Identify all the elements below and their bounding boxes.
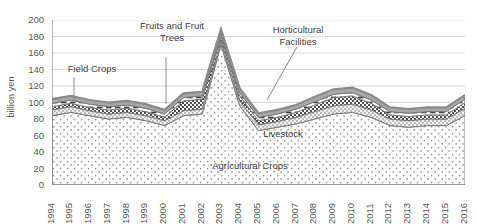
x-tick-2000: 2000 [156, 188, 169, 224]
y-tick-20: 20 [14, 164, 44, 174]
y-tick-180: 180 [14, 32, 44, 42]
x-tick-2013: 2013 [400, 188, 413, 224]
x-tick-1997: 1997 [100, 188, 113, 224]
annotation-field-crops: Field Crops [56, 63, 128, 75]
x-tick-2008: 2008 [306, 188, 319, 224]
annotation-fruits-and-fruit-trees: Fruits and Fruit Trees [126, 20, 218, 43]
annotation-horticultural-facilities: Horticultural Facilities [255, 24, 341, 47]
x-tick-2011: 2011 [363, 188, 376, 224]
y-tick-160: 160 [14, 48, 44, 58]
annotation-agricultural-crops: Agricultural Crops [198, 160, 302, 172]
y-tick-0: 0 [14, 180, 44, 190]
x-tick-2007: 2007 [288, 188, 301, 224]
x-tick-2012: 2012 [381, 188, 394, 224]
x-tick-2014: 2014 [419, 188, 432, 224]
y-tick-40: 40 [14, 147, 44, 157]
x-tick-1996: 1996 [81, 188, 94, 224]
x-tick-1998: 1998 [119, 188, 132, 224]
x-tick-2006: 2006 [269, 188, 282, 224]
x-tick-2009: 2009 [325, 188, 338, 224]
y-tick-60: 60 [14, 131, 44, 141]
x-axis-ticks: 1994199519961997199819992000200120022003… [52, 187, 465, 224]
annotation-livestock: Livestock [252, 128, 314, 140]
y-axis-ticks: 020406080100120140160180200 [10, 0, 44, 224]
x-tick-2010: 2010 [344, 188, 357, 224]
y-tick-80: 80 [14, 114, 44, 124]
x-tick-2005: 2005 [250, 188, 263, 224]
y-tick-100: 100 [14, 98, 44, 108]
x-tick-2015: 2015 [438, 188, 451, 224]
y-tick-120: 120 [14, 81, 44, 91]
x-tick-1999: 1999 [137, 188, 150, 224]
x-tick-1995: 1995 [62, 188, 75, 224]
y-tick-200: 200 [14, 15, 44, 25]
x-tick-1994: 1994 [44, 188, 57, 224]
x-tick-2002: 2002 [194, 188, 207, 224]
y-tick-140: 140 [14, 65, 44, 75]
x-tick-2003: 2003 [212, 188, 225, 224]
stacked-area-chart: billion yen 020406080100120140160180200 [0, 0, 477, 224]
leader-horticultural [267, 47, 297, 100]
x-tick-2016: 2016 [457, 188, 470, 224]
x-tick-2001: 2001 [175, 188, 188, 224]
x-tick-2004: 2004 [231, 188, 244, 224]
